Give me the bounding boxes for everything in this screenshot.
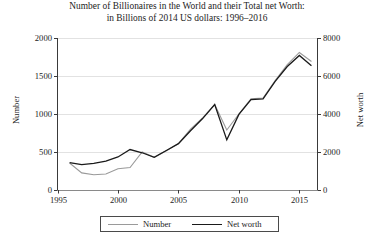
- y-axis-left-tick-label: 1500: [18, 71, 52, 81]
- x-axis-tick-label: 1995: [39, 195, 79, 205]
- x-axis-tick-label: 2015: [280, 195, 320, 205]
- y-axis-left-tick-label: 1000: [18, 109, 52, 119]
- legend-swatch-number-icon: [108, 224, 138, 225]
- x-axis-tick-label: 2005: [159, 195, 199, 205]
- legend-item-net-worth: Net worth: [192, 217, 262, 231]
- y-axis-left-tick-label: 2000: [18, 33, 52, 43]
- gridlines: [58, 39, 318, 191]
- legend-item-number: Number: [108, 217, 171, 231]
- legend-label-net-worth: Net worth: [227, 219, 262, 229]
- y-axis-right-tick-label: 4000: [323, 109, 357, 119]
- series-line-net-worth: [70, 55, 312, 164]
- y-axis-left-tick-label: 0: [18, 185, 52, 195]
- y-axis-right-tick-label: 2000: [323, 147, 357, 157]
- chart-legend: Number Net worth: [100, 216, 279, 232]
- x-axis-tick-label: 2000: [99, 195, 139, 205]
- y-axis-right-tick-label: 8000: [323, 33, 357, 43]
- plot-area: [0, 0, 374, 248]
- legend-swatch-net-worth-icon: [192, 224, 222, 225]
- chart-figure: Number of Billionaires in the World and …: [0, 0, 374, 248]
- axis-ticks: [54, 39, 321, 194]
- x-axis-tick-label: 2010: [220, 195, 260, 205]
- y-axis-left-tick-label: 500: [18, 147, 52, 157]
- y-axis-right-tick-label: 0: [323, 185, 357, 195]
- data-series: [70, 52, 312, 174]
- y-axis-right-tick-label: 6000: [323, 71, 357, 81]
- series-line-number: [70, 52, 312, 174]
- legend-label-number: Number: [143, 219, 171, 229]
